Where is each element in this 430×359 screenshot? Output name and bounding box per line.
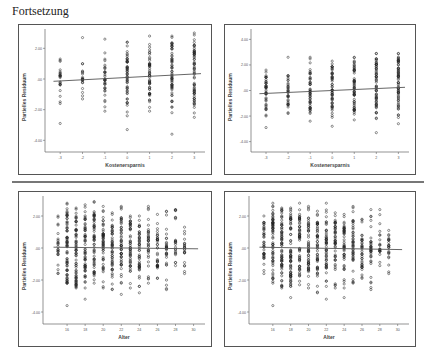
x-tick-label: 30 [192, 328, 196, 332]
x-tick-label: -3 [264, 156, 267, 160]
x-axis-label: Kostenersparnis [251, 162, 409, 168]
y-tick-label: -2.00 [32, 279, 40, 283]
x-axis-label: Kostenersparnis [45, 162, 205, 168]
y-tick-label: -4.00 [238, 311, 246, 315]
y-tick-label: -4.00 [32, 311, 40, 315]
x-tick-label: -1 [103, 156, 106, 160]
y-tick-label: 4.00 [241, 38, 248, 42]
y-tick-label: 2.00 [33, 215, 40, 219]
y-tick-label: .00 [241, 247, 246, 251]
plot-panel-top-right: 4.002.00.00-2.00-4.00-3-2-10123Kosteners… [224, 24, 416, 175]
y-tick-label: .00 [243, 89, 248, 93]
x-tick-label: 22 [119, 328, 123, 332]
data-points [263, 202, 390, 307]
y-tick-label: .00 [35, 247, 40, 251]
x-tick-label: 16 [271, 328, 275, 332]
x-tick-label: 20 [101, 328, 105, 332]
scatter-plot-svg: 4.002.00.00-2.00-4.00-3-2-10123 [225, 25, 415, 174]
x-tick-label: 30 [396, 328, 400, 332]
section-divider [12, 181, 424, 183]
x-tick-label: 2 [375, 156, 377, 160]
x-tick-label: 3 [397, 156, 399, 160]
y-tick-label: .00 [37, 78, 42, 82]
y-tick-label: -4.00 [34, 139, 42, 143]
x-tick-label: 26 [360, 328, 364, 332]
x-tick-label: -2 [81, 156, 84, 160]
y-tick-label: -2.00 [238, 279, 246, 283]
x-tick-label: 20 [306, 328, 310, 332]
x-tick-label: -2 [286, 156, 289, 160]
x-tick-label: 1 [149, 156, 151, 160]
y-axis-label: Partielles Residuum [227, 61, 233, 121]
data-points [57, 201, 186, 307]
x-tick-label: 3 [193, 156, 195, 160]
x-tick-label: 28 [174, 328, 178, 332]
x-tick-label: 24 [342, 328, 346, 332]
y-tick-label: 2.00 [241, 63, 248, 67]
x-tick-label: 24 [137, 328, 141, 332]
x-axis-label: Alter [43, 334, 205, 340]
y-tick-label: 2.00 [35, 47, 42, 51]
y-axis-label: Partielles Residuum [21, 61, 27, 121]
y-tick-label: 2.00 [239, 215, 246, 219]
x-tick-label: 0 [331, 156, 333, 160]
scatter-plot-svg: 2.00.00-2.00-4.001618202224262830 [225, 192, 415, 346]
y-tick-label: -2.00 [34, 108, 42, 112]
plot-panel-bottom-left: 2.00.00-2.00-4.001618202224262830AlterPa… [18, 191, 212, 347]
x-tick-label: 2 [171, 156, 173, 160]
plot-panel-bottom-right: 2.00.00-2.00-4.001618202224262830AlterPa… [224, 191, 416, 347]
data-points [265, 52, 400, 133]
y-tick-label: -2.00 [240, 115, 248, 119]
plot-panel-top-left: 2.00.00-2.00-4.00-3-2-10123Kostenersparn… [18, 24, 212, 175]
data-points [59, 32, 195, 135]
x-tick-label: 26 [155, 328, 159, 332]
scatter-plot-svg: 2.00.00-2.00-4.001618202224262830 [19, 192, 211, 346]
x-axis-label: Alter [249, 334, 409, 340]
x-tick-label: -3 [59, 156, 62, 160]
scatter-plot-svg: 2.00.00-2.00-4.00-3-2-10123 [19, 25, 211, 174]
x-tick-label: 0 [126, 156, 128, 160]
x-tick-label: 28 [378, 328, 382, 332]
x-tick-label: -1 [309, 156, 312, 160]
page-heading: Fortsetzung [12, 4, 69, 19]
x-tick-label: 22 [324, 328, 328, 332]
x-tick-label: 1 [353, 156, 355, 160]
y-axis-label: Partielles Residuum [227, 230, 233, 290]
y-axis-label: Partielles Residuum [21, 230, 27, 290]
x-tick-label: 18 [289, 328, 293, 332]
x-tick-label: 16 [65, 328, 69, 332]
x-tick-label: 18 [83, 328, 87, 332]
y-tick-label: -4.00 [240, 140, 248, 144]
